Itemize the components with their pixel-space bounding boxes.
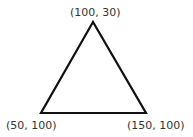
vertex-label-bottom-right: (150, 100) bbox=[127, 120, 185, 132]
vertex-label-apex: (100, 30) bbox=[70, 7, 121, 19]
triangle-diagram bbox=[0, 0, 193, 137]
triangle-shape bbox=[41, 22, 146, 113]
vertex-label-bottom-left: (50, 100) bbox=[6, 120, 57, 132]
